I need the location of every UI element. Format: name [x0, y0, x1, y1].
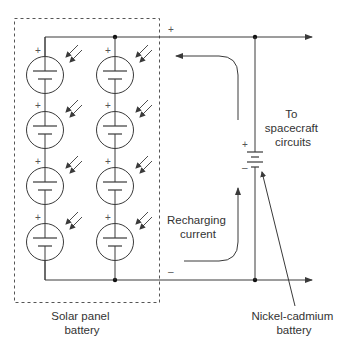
positive-rail: + [45, 24, 312, 56]
cell-plus: + [35, 45, 41, 56]
light-arrows-icon [136, 212, 152, 229]
light-arrows-icon [136, 100, 152, 117]
solar-cell: + [27, 100, 83, 149]
circuit-diagram: + – + + [0, 0, 338, 348]
solar-cell: + [27, 45, 83, 94]
solar-cell: + [97, 156, 153, 205]
light-arrows-icon [66, 45, 82, 62]
top-rail-plus: + [168, 24, 174, 35]
bottom-rail-minus: – [168, 266, 174, 277]
recharging-current-label: Recharging current [167, 214, 229, 240]
solar-cell-column-left: + + + [27, 45, 83, 261]
light-arrows-icon [136, 45, 152, 62]
light-arrows-icon [66, 212, 82, 229]
battery-minus: – [242, 162, 248, 173]
solar-panel-label: Solar panel battery [51, 310, 112, 336]
nicad-label: Nickel-cadmium battery [252, 310, 337, 336]
light-arrows-icon [66, 156, 82, 173]
solar-cell-column-right: + + + [97, 45, 153, 261]
solar-cell: + [97, 100, 153, 149]
solar-cell: + [27, 212, 83, 261]
solar-cell: + [27, 156, 83, 205]
solar-cell: + [97, 45, 153, 94]
cell-plus: + [105, 212, 111, 223]
spacecraft-label: To spacecraft circuits [265, 108, 321, 148]
cell-plus: + [35, 100, 41, 111]
cell-plus: + [105, 156, 111, 167]
cell-plus: + [105, 100, 111, 111]
cell-plus: + [35, 212, 41, 223]
battery-plus: + [242, 139, 248, 150]
light-arrows-icon [66, 100, 82, 117]
nicad-leader-arrow [262, 172, 295, 306]
cell-plus: + [105, 45, 111, 56]
upper-flow-arrow [176, 56, 238, 120]
solar-cell: + [97, 212, 153, 261]
light-arrows-icon [136, 156, 152, 173]
nickel-cadmium-battery-symbol: + – [242, 37, 263, 280]
negative-rail: – [45, 260, 312, 282]
cell-plus: + [35, 156, 41, 167]
